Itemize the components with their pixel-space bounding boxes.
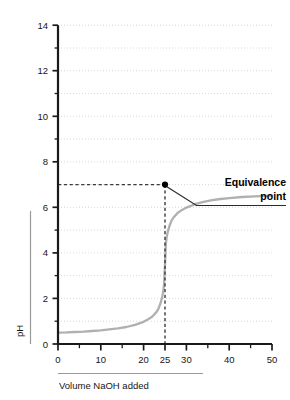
y-tick-label-6: 6 xyxy=(43,202,48,213)
y-tick-label-2: 2 xyxy=(43,293,48,304)
x-tick-label-40: 40 xyxy=(224,354,235,365)
y-axis-label: pH xyxy=(14,325,25,337)
x-tick-label-0: 0 xyxy=(55,354,60,365)
equivalence-label-line1: Equivalence xyxy=(225,176,286,188)
x-tick-label-25: 25 xyxy=(160,354,171,365)
equivalence-label-line2: point xyxy=(260,190,286,202)
titration-chart: 0 2 4 6 8 10 12 14 0 10 20 25 30 40 50 p… xyxy=(0,0,290,400)
y-tick-label-8: 8 xyxy=(43,156,48,167)
y-tick-label-14: 14 xyxy=(37,20,48,31)
x-tick-label-30: 30 xyxy=(181,354,192,365)
y-tick-label-10: 10 xyxy=(37,111,48,122)
x-tick-label-20: 20 xyxy=(138,354,149,365)
y-tick-label-4: 4 xyxy=(43,247,48,258)
y-tick-label-12: 12 xyxy=(37,65,48,76)
x-tick-label-10: 10 xyxy=(96,354,107,365)
y-tick-label-0: 0 xyxy=(43,339,48,350)
x-tick-label-50: 50 xyxy=(267,354,278,365)
titration-curve-figure: 0 2 4 6 8 10 12 14 0 10 20 25 30 40 50 p… xyxy=(0,0,290,400)
equivalence-point-marker xyxy=(162,182,168,188)
x-axis-label: Volume NaOH added xyxy=(59,380,149,391)
